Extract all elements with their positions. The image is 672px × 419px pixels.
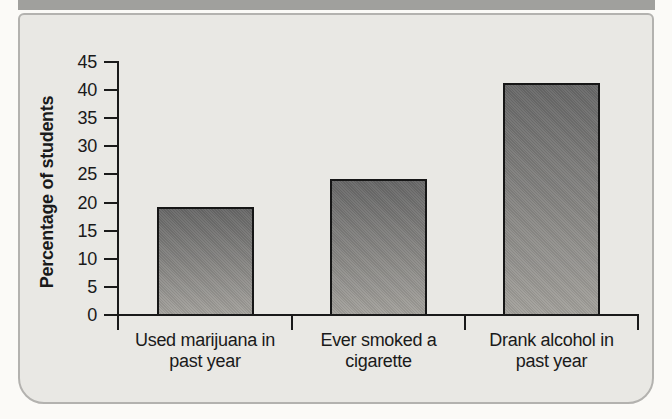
y-tick-mark bbox=[104, 258, 118, 260]
chart-panel: Percentage of students 05101520253035404… bbox=[18, 13, 654, 404]
bar-3 bbox=[503, 83, 600, 316]
header-band bbox=[18, 0, 655, 10]
y-tick-mark bbox=[104, 117, 118, 119]
y-tick-label: 40 bbox=[42, 80, 97, 100]
y-tick-label: 10 bbox=[42, 249, 97, 269]
y-tick-label: 15 bbox=[42, 221, 97, 241]
y-tick-mark bbox=[104, 145, 118, 147]
y-tick-mark bbox=[104, 230, 118, 232]
bar-2 bbox=[330, 179, 427, 316]
y-tick-label: 30 bbox=[42, 136, 97, 156]
y-tick-mark bbox=[104, 202, 118, 204]
bar-1 bbox=[157, 207, 254, 316]
page: Percentage of students 05101520253035404… bbox=[0, 0, 672, 419]
y-tick-label: 5 bbox=[42, 277, 97, 297]
y-tick-label: 0 bbox=[42, 305, 97, 325]
y-tick-mark bbox=[104, 286, 118, 288]
y-tick-mark bbox=[104, 61, 118, 63]
category-divider bbox=[291, 315, 293, 330]
x-axis-line bbox=[117, 314, 639, 316]
category-divider bbox=[637, 315, 639, 330]
y-tick-mark bbox=[104, 173, 118, 175]
category-label: Drank alcohol in past year bbox=[465, 330, 639, 372]
y-axis-line bbox=[117, 61, 119, 330]
y-tick-mark bbox=[104, 314, 118, 316]
category-label: Used marijuana in past year bbox=[118, 330, 292, 372]
y-tick-mark bbox=[104, 89, 118, 91]
y-tick-label: 45 bbox=[42, 52, 97, 72]
bar-chart: Percentage of students 05101520253035404… bbox=[20, 15, 652, 402]
category-divider bbox=[117, 315, 119, 330]
y-tick-label: 20 bbox=[42, 193, 97, 213]
y-tick-label: 25 bbox=[42, 164, 97, 184]
category-divider bbox=[464, 315, 466, 330]
category-label: Ever smoked a cigarette bbox=[292, 330, 466, 372]
y-tick-label: 35 bbox=[42, 108, 97, 128]
